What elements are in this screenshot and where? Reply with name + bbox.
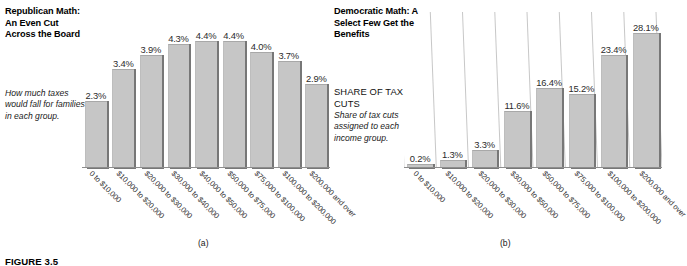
bar-group: 3.9% [137,12,165,167]
panel-democratic-math: Democratic Math: A Select Few Get the Be… [328,0,667,266]
x-label-slot: $200,000 and over [630,169,662,179]
x-label-slot: $40,000 to $50,000 [192,169,220,179]
bar-value-label: 2.9% [306,73,327,84]
bar-value-label: 3.4% [113,58,134,69]
chart-b-x-axis-labels: 0 to $10,000$10,000 to $20,000$20,000 to… [404,169,662,179]
bar [112,69,134,167]
x-label-slot: $75,000 to $100,000 [247,169,275,179]
bar-value-label: 4.4% [196,30,217,41]
bar-value-label: 15.2% [569,83,595,94]
bar [472,150,498,167]
bar [601,55,627,167]
bar-value-label: 23.4% [601,44,627,55]
figure-caption: FIGURE 3.5 [5,256,58,266]
bar-group: 23.4% [598,12,630,167]
x-label-slot: $50,000 to $75,000 [220,169,248,179]
bar [305,84,327,167]
bar-group: 4.0% [247,12,275,167]
chart-a-plot-area: 2.3%3.4%3.9%4.3%4.4%4.4%4.0%3.7%2.9% [82,12,330,168]
bar [140,55,162,167]
bar-value-label: 16.4% [536,77,562,88]
x-label-slot: $10,000 to $20,000 [436,169,468,179]
bar [504,111,530,167]
bar-group: 1.3% [436,12,468,167]
bar-value-label: 3.7% [278,50,299,61]
panel-republican-math: Republican Math: An Even Cut Across the … [0,0,334,266]
x-label-slot: 0 to $10,000 [82,169,110,179]
bar [440,160,466,167]
bar [250,52,272,167]
bar-group: 16.4% [533,12,565,167]
x-label-slot: $200,000 and over [303,169,331,179]
chart-a-bars: 2.3%3.4%3.9%4.3%4.4%4.4%4.0%3.7%2.9% [82,12,330,167]
x-label-slot: $30,000 to $50,000 [501,169,533,179]
bar-group: 3.4% [110,12,138,167]
bar [195,41,217,167]
x-label-slot: $30,000 to $40,000 [165,169,193,179]
bar [85,101,107,167]
x-label-slot: $50,000 to $75,000 [533,169,565,179]
bar [569,94,595,167]
bar-group: 3.7% [275,12,303,167]
x-label-slot: $75,000 to $100,000 [565,169,597,179]
bar-value-label: 1.3% [442,149,463,160]
panel-b-subcaption: (b) [500,238,511,248]
bar-value-label: 3.9% [141,44,162,55]
bar-group: 28.1% [630,12,662,167]
x-label-slot: $20,000 to $30,000 [469,169,501,179]
bar [536,88,562,167]
bar-group: 4.4% [192,12,220,167]
bar-value-label: 3.3% [474,139,495,150]
bar-value-label: 0.2% [410,153,431,164]
bar-value-label: 2.3% [85,90,106,101]
panel-a-note: How much taxes would fall for families i… [5,88,85,122]
x-label-slot: 0 to $10,000 [404,169,436,179]
bar [278,61,300,167]
bar-group: 2.3% [82,12,110,167]
bar [168,44,190,167]
bar-value-label: 4.3% [168,33,189,44]
x-label-slot: $10,000 to $20,000 [110,169,138,179]
bar-group: 4.4% [220,12,248,167]
x-label-slot: $20,000 to $30,000 [137,169,165,179]
bar-value-label: 4.4% [223,30,244,41]
bar-group: 11.6% [501,12,533,167]
panel-a-title: Republican Math: An Even Cut Across the … [5,6,83,41]
panel-a-subcaption: (a) [198,238,209,248]
chart-b-baseline [404,167,662,168]
bar [633,33,659,167]
chart-a-x-axis-labels: 0 to $10,000$10,000 to $20,000$20,000 to… [82,169,330,179]
x-label-slot: $100,000 to $200,000 [275,169,303,179]
bar-value-label: 4.0% [251,41,272,52]
chart-b-plot-area: 0.2%1.3%3.3%11.6%16.4%15.2%23.4%28.1% [404,12,662,168]
bar-value-label: 11.6% [504,100,529,111]
bar [223,41,245,167]
chart-a-baseline [82,167,330,168]
bar-group: 4.3% [165,12,193,167]
bar-group: 2.9% [303,12,331,167]
bar-value-label: 28.1% [633,22,659,33]
chart-b-bars: 0.2%1.3%3.3%11.6%16.4%15.2%23.4%28.1% [404,12,662,167]
x-label-slot: $100,000 to $200,000 [598,169,630,179]
bar-group: 0.2% [404,12,436,167]
bar-group: 15.2% [565,12,597,167]
bar-group: 3.3% [469,12,501,167]
